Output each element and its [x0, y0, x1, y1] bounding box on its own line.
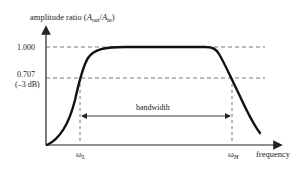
y-axis-label: amplitude ratio (Aout/Ain) [30, 12, 115, 23]
minus-3db-label: (–3 dB) [15, 80, 40, 89]
bandwidth-label: bandwidth [136, 103, 170, 112]
x-axis-label: frequency [256, 149, 291, 159]
response-curve [47, 47, 260, 145]
level-1000-label: 1.000 [17, 43, 35, 52]
omega-low-label: ωL [76, 149, 86, 160]
frequency-response-diagram: amplitude ratio (Aout/Ain) 1.000 0.707 (… [0, 0, 307, 169]
omega-high-label: ωH [228, 149, 239, 160]
level-0707-label: 0.707 [17, 70, 35, 79]
